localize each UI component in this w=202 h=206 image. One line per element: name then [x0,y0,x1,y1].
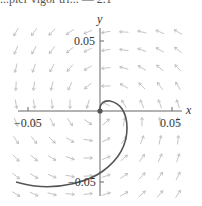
y-tick-label-neg: −0.05 [68,175,96,189]
y-tick-label-pos: 0.05 [74,34,95,48]
solution-trajectory [16,101,127,187]
x-axis-label: x [185,103,192,117]
vector-field [12,28,182,198]
origin-point [97,108,102,113]
y-axis-label: y [96,12,103,26]
x-tick-label-pos: 0.05 [160,116,181,130]
x-tick-label-neg: −0.05 [14,116,42,130]
phase-portrait-chart: x y −0.05 0.05 0.05 −0.05 [0,0,202,206]
